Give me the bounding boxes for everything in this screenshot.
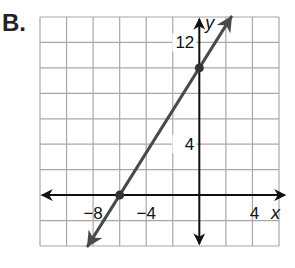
x-tick-label: −4 <box>137 204 156 223</box>
y-tick-label: 4 <box>185 135 194 154</box>
coordinate-plane: −8−44124xy <box>0 0 295 268</box>
graphed-line <box>88 17 231 246</box>
x-tick-label: −8 <box>83 204 102 223</box>
y-tick-label: 12 <box>175 33 194 52</box>
x-tick-label: 4 <box>250 204 259 223</box>
x-axis-label: x <box>270 203 281 223</box>
tick-labels: −8−44124xy <box>83 13 281 223</box>
intercept-point <box>195 63 204 72</box>
axes <box>42 19 285 244</box>
data-line <box>88 17 231 246</box>
y-axis-label: y <box>203 13 215 33</box>
intercept-point <box>115 191 124 200</box>
